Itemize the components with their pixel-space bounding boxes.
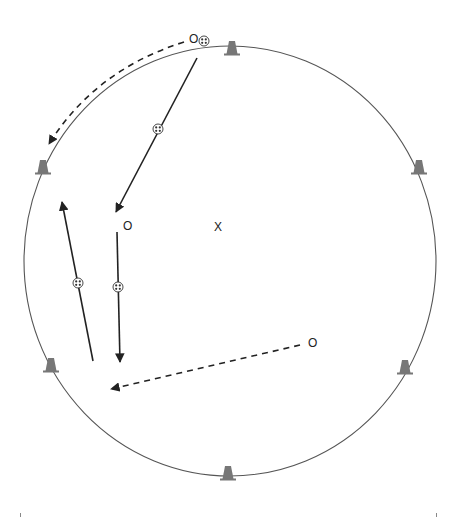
drill-diagram: O O O X [0, 0, 460, 519]
solid-arrow-top-to-center [116, 58, 197, 212]
cone-icon [35, 160, 51, 175]
ball-icon [73, 278, 83, 288]
player-marker-top: O [189, 32, 198, 46]
dashed-run-arrow-right [111, 345, 300, 389]
player-marker-left-center: O [123, 219, 132, 233]
cone-icon [224, 41, 240, 56]
cone-icon [220, 466, 236, 481]
center-marker: X [214, 220, 222, 234]
cone-icon [397, 360, 413, 375]
corner-tick-right [436, 513, 437, 517]
ball-icon [113, 282, 123, 292]
corner-tick-left [20, 513, 21, 517]
ball-icon [199, 36, 209, 46]
player-marker-right: O [308, 336, 317, 350]
ball-icon [153, 124, 163, 134]
cone-icon [43, 358, 59, 373]
solid-arrow-center-down [117, 232, 120, 362]
field-circle [24, 46, 436, 476]
